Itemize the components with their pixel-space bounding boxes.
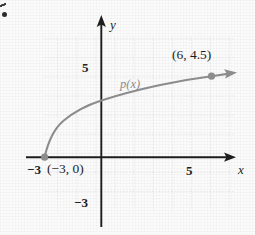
x-tick-minus3: −3 <box>27 163 41 176</box>
point-marker-right <box>208 73 215 80</box>
annotation-right-point: (6, 4.5) <box>172 48 211 62</box>
y-tick-5: 5 <box>82 61 89 74</box>
graph-figure: y x 5 −3 5 −3 (−3, 0) (6, 4.5) p(x) <box>0 0 255 235</box>
point-marker-left <box>41 154 48 161</box>
x-axis-label: x <box>238 163 244 176</box>
annotation-function-label: p(x) <box>120 78 140 91</box>
coordinate-plane <box>0 0 255 235</box>
y-tick-minus3: −3 <box>74 196 88 209</box>
y-axis-label: y <box>110 18 116 31</box>
annotation-left-point: (−3, 0) <box>47 162 84 176</box>
grid-region <box>44 37 234 209</box>
x-tick-5: 5 <box>186 164 193 177</box>
